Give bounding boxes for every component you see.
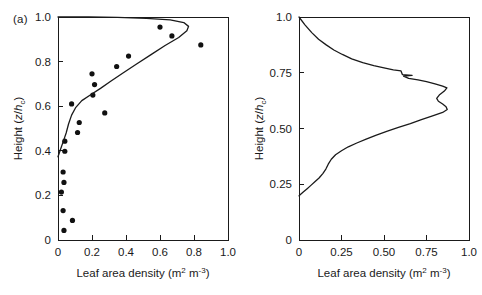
y-tick-label: 0.2 — [35, 189, 51, 201]
data-point — [89, 71, 94, 76]
x-tick-label: 0.2 — [84, 246, 100, 258]
x-axis-title: Leaf area density (m2 m-3) — [76, 266, 209, 279]
data-curve — [58, 17, 189, 157]
x-tick-label: 0 — [55, 246, 61, 258]
data-point — [62, 149, 67, 154]
data-point — [77, 120, 82, 125]
x-tick-label: 0.50 — [373, 246, 395, 258]
data-point — [70, 218, 75, 223]
data-point — [157, 24, 162, 29]
y-tick-label: 0.50 — [270, 123, 292, 135]
y-axis-title: Height (z/hc) — [12, 97, 27, 161]
x-tick-label: 0 — [296, 246, 302, 258]
plot-frame — [299, 17, 469, 240]
x-tick-label: 0.6 — [152, 246, 168, 258]
data-point — [92, 82, 97, 87]
panel-a-plot: 00.20.40.60.81.000.20.40.60.81.0Leaf are… — [0, 0, 241, 295]
panel-b-plot: 00.250.500.751.000.250.500.751.0Leaf are… — [241, 0, 482, 295]
y-tick-label: 0.8 — [35, 56, 51, 68]
data-point — [61, 228, 66, 233]
x-tick-label: 0.4 — [118, 246, 135, 258]
data-point — [61, 169, 66, 174]
data-point — [126, 53, 131, 58]
data-point — [61, 208, 66, 213]
y-tick-label: 0 — [286, 234, 292, 246]
data-point — [198, 42, 203, 47]
x-tick-label: 0.8 — [186, 246, 202, 258]
x-tick-label: 1.0 — [461, 246, 477, 258]
y-axis-title: Height (z/hc) — [253, 97, 268, 161]
figure-container: (a) 00.20.40.60.81.000.20.40.60.81.0Leaf… — [0, 0, 482, 295]
data-point — [59, 189, 64, 194]
y-tick-label: 1.0 — [35, 11, 51, 23]
data-point — [102, 110, 107, 115]
y-tick-label: 0.4 — [35, 145, 52, 157]
panel-a-label: (a) — [13, 13, 28, 25]
data-point — [114, 64, 119, 69]
y-tick-label: 0.25 — [270, 178, 292, 190]
data-curve — [299, 17, 447, 196]
x-tick-label: 0.75 — [415, 246, 437, 258]
panel-b: (b) 00.250.500.751.000.250.500.751.0Leaf… — [241, 0, 482, 295]
plot-frame — [58, 17, 228, 240]
data-point — [75, 130, 80, 135]
x-tick-label: 1.0 — [220, 246, 236, 258]
y-tick-label: 0.75 — [270, 67, 292, 79]
y-tick-label: 1.0 — [276, 11, 292, 23]
panel-a: (a) 00.20.40.60.81.000.20.40.60.81.0Leaf… — [0, 0, 241, 295]
data-point — [61, 180, 66, 185]
data-point — [169, 33, 174, 38]
data-point — [69, 101, 74, 106]
y-tick-label: 0.6 — [35, 100, 51, 112]
y-tick-label: 0 — [45, 234, 51, 246]
x-axis-title: Leaf area density (m2 m-3) — [317, 266, 450, 279]
x-tick-label: 0.25 — [330, 246, 352, 258]
